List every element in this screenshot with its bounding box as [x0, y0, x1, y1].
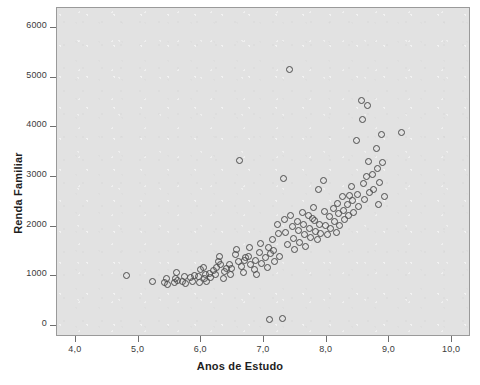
- data-point: [216, 253, 223, 260]
- data-point: [361, 196, 368, 203]
- x-tick-label: 6,0: [194, 344, 207, 354]
- x-tick-label: 5,0: [131, 344, 144, 354]
- y-tick-label: 6000: [26, 20, 47, 30]
- data-point: [287, 212, 294, 219]
- y-tick-label: 2000: [26, 219, 47, 229]
- x-tick-label: 8,0: [319, 344, 332, 354]
- data-point: [369, 171, 376, 178]
- data-point: [339, 193, 346, 200]
- data-point: [320, 177, 327, 184]
- data-point: [375, 201, 382, 208]
- data-point: [279, 315, 286, 322]
- y-tick-label: 4000: [26, 119, 47, 129]
- data-point: [360, 180, 367, 187]
- data-point: [374, 165, 381, 172]
- data-point: [359, 116, 366, 123]
- plot-panel: [56, 7, 470, 336]
- data-point: [310, 204, 317, 211]
- y-tick-label: 0: [42, 318, 47, 328]
- data-point: [314, 236, 321, 243]
- x-tick-mark: [200, 336, 201, 342]
- x-tick-mark: [75, 336, 76, 342]
- data-point: [275, 230, 282, 237]
- data-point: [336, 222, 343, 229]
- y-tick-label: 3000: [26, 169, 47, 179]
- data-point: [363, 173, 370, 180]
- y-tick-label: 5000: [26, 70, 47, 80]
- data-point: [364, 102, 371, 109]
- data-point: [309, 215, 316, 222]
- data-point: [242, 254, 249, 261]
- data-point: [333, 229, 340, 236]
- data-point: [240, 269, 247, 276]
- data-point: [353, 137, 360, 144]
- data-point: [373, 145, 380, 152]
- data-point: [266, 316, 273, 323]
- data-point: [253, 271, 260, 278]
- data-point: [350, 209, 357, 216]
- data-point: [398, 129, 405, 136]
- data-point: [365, 158, 372, 165]
- data-point: [182, 280, 189, 287]
- y-tick-mark: [50, 77, 56, 78]
- y-tick-mark: [50, 27, 56, 28]
- data-point: [302, 243, 309, 250]
- x-tick-mark: [388, 336, 389, 342]
- y-tick-mark: [50, 275, 56, 276]
- data-point: [267, 250, 274, 257]
- x-tick-mark: [138, 336, 139, 342]
- data-point: [348, 183, 355, 190]
- x-tick-mark: [263, 336, 264, 342]
- data-point: [220, 275, 227, 282]
- data-point: [291, 246, 298, 253]
- x-tick-label: 4,0: [68, 344, 81, 354]
- y-tick-mark: [50, 126, 56, 127]
- data-point: [271, 258, 278, 265]
- x-tick-mark: [326, 336, 327, 342]
- data-point: [286, 66, 293, 73]
- data-point: [334, 200, 341, 207]
- data-point: [370, 186, 377, 193]
- data-point: [246, 244, 253, 251]
- data-point: [284, 241, 291, 248]
- y-axis-label: Renda Familiar: [12, 123, 24, 263]
- data-point: [173, 269, 180, 276]
- y-tick-mark: [50, 325, 56, 326]
- y-tick-mark: [50, 226, 56, 227]
- data-point: [200, 264, 207, 271]
- data-point: [269, 236, 276, 243]
- data-point: [276, 253, 283, 260]
- data-point: [378, 131, 385, 138]
- data-point: [381, 193, 388, 200]
- y-tick-mark: [50, 176, 56, 177]
- data-point: [376, 179, 383, 186]
- data-point: [227, 271, 234, 278]
- data-point: [282, 229, 289, 236]
- scatter-plot-figure: 0100020003000400050006000 4,05,06,07,08,…: [0, 0, 480, 385]
- x-tick-label: 10,0: [442, 344, 460, 354]
- x-tick-mark: [451, 336, 452, 342]
- x-tick-label: 9,0: [382, 344, 395, 354]
- data-point: [233, 246, 240, 253]
- x-axis-label: Anos de Estudo: [0, 360, 480, 372]
- data-point: [379, 159, 386, 166]
- data-point: [274, 221, 281, 228]
- data-point: [236, 157, 243, 164]
- x-tick-label: 7,0: [256, 344, 269, 354]
- data-point: [280, 175, 287, 182]
- data-point: [315, 186, 322, 193]
- panel-texture: [57, 8, 469, 335]
- data-point: [149, 278, 156, 285]
- data-point: [210, 267, 217, 274]
- y-tick-label: 1000: [26, 268, 47, 278]
- data-point: [257, 240, 264, 247]
- data-point: [354, 191, 361, 198]
- data-point: [123, 272, 130, 279]
- data-point: [355, 203, 362, 210]
- data-point: [264, 264, 271, 271]
- data-point: [324, 231, 331, 238]
